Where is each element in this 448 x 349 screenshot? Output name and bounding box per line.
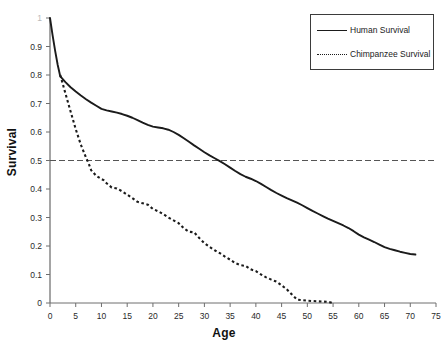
x-tick-label: 10 xyxy=(97,311,106,321)
x-tick-label: 45 xyxy=(277,311,286,321)
legend-item-chimpanzee-survival: Chimpanzee Survival xyxy=(311,47,433,61)
x-axis-title: Age xyxy=(0,326,448,340)
legend-label-chimpanzee-survival: Chimpanzee Survival xyxy=(350,49,430,59)
y-tick-label: 0.8 xyxy=(8,70,42,80)
x-tick-label: 15 xyxy=(122,311,131,321)
x-tick-label: 5 xyxy=(73,311,78,321)
x-tick-label: 75 xyxy=(431,311,440,321)
x-tick-label: 35 xyxy=(225,311,234,321)
y-tick-label: 0.1 xyxy=(8,270,42,280)
y-tick-label: 0.3 xyxy=(8,213,42,223)
y-tick-label: 0 xyxy=(8,298,42,308)
y-tick-marks xyxy=(46,18,50,303)
y-tick-label: 0.7 xyxy=(8,99,42,109)
y-tick-label: 0.9 xyxy=(8,42,42,52)
x-tick-label: 30 xyxy=(200,311,209,321)
x-tick-label: 55 xyxy=(328,311,337,321)
y-tick-label: 1 xyxy=(8,13,42,23)
chart-legend: Human Survival Chimpanzee Survival xyxy=(310,14,434,70)
x-tick-label: 0 xyxy=(48,311,53,321)
dotted-line-swatch-icon xyxy=(317,49,347,59)
x-tick-marks xyxy=(50,303,436,307)
y-tick-label: 0.2 xyxy=(8,241,42,251)
x-tick-label: 40 xyxy=(251,311,260,321)
legend-item-human-survival: Human Survival xyxy=(311,23,433,37)
x-tick-label: 50 xyxy=(303,311,312,321)
x-tick-label: 70 xyxy=(406,311,415,321)
x-tick-label: 60 xyxy=(354,311,363,321)
x-tick-label: 25 xyxy=(174,311,183,321)
y-axis-title: Survival xyxy=(5,117,19,187)
legend-label-human-survival: Human Survival xyxy=(350,25,410,35)
solid-line-swatch-icon xyxy=(317,25,347,35)
survival-curve-chart: 00.10.20.30.40.50.60.70.80.91 0510152025… xyxy=(0,0,448,349)
x-tick-label: 65 xyxy=(380,311,389,321)
x-tick-label: 20 xyxy=(148,311,157,321)
